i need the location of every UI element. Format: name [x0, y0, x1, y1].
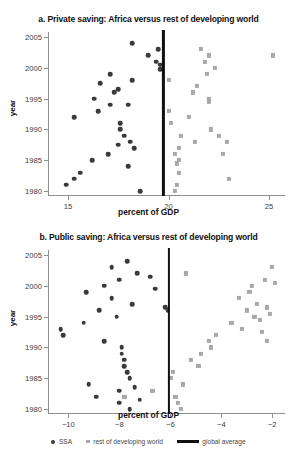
data-point-ssa [118, 121, 123, 126]
data-point-ssa [72, 176, 77, 181]
panel-a-plot-inner: 198019851990199520002005152025 [48, 32, 285, 196]
y-tick [44, 129, 48, 130]
x-tick-label: −2 [268, 420, 277, 429]
x-tick [68, 196, 69, 200]
data-point-rest-of-developing-world [181, 382, 185, 386]
data-point-ssa [96, 109, 101, 114]
legend-label: rest of developing world [93, 438, 163, 445]
data-point-rest-of-developing-world [173, 395, 177, 399]
data-point-rest-of-developing-world [273, 281, 277, 285]
panel-a-title: a. Private saving: Africa versus rest of… [0, 14, 297, 24]
data-point-ssa [108, 102, 113, 107]
legend-label: SSA [59, 438, 72, 445]
x-tick [169, 196, 170, 200]
data-point-ssa [117, 388, 122, 393]
panel-b-title: b. Public saving: Africa versus rest of … [0, 232, 297, 242]
data-point-ssa [130, 78, 135, 83]
data-point-ssa [125, 370, 130, 375]
data-point-ssa [120, 351, 125, 356]
data-point-ssa [126, 164, 131, 169]
data-point-ssa [64, 183, 69, 188]
data-point-ssa [106, 152, 111, 157]
data-point-ssa [117, 401, 122, 406]
data-point-rest-of-developing-world [189, 358, 193, 362]
data-point-ssa [102, 283, 107, 288]
data-point-ssa [108, 72, 113, 77]
data-point-rest-of-developing-world [263, 278, 267, 282]
data-point-ssa [98, 81, 103, 86]
data-point-rest-of-developing-world [268, 311, 272, 315]
panel-a-y-axis [48, 32, 49, 196]
global-average-line [162, 30, 164, 196]
panel-b-y-axis-label: year [8, 310, 17, 326]
data-point-ssa [122, 133, 127, 138]
data-point-rest-of-developing-world [205, 72, 209, 76]
y-tick [44, 286, 48, 287]
legend-label: global average [202, 438, 245, 445]
y-tick [44, 37, 48, 38]
x-tick [269, 196, 270, 200]
data-point-ssa [146, 53, 151, 58]
data-point-ssa [116, 87, 121, 92]
data-point-ssa [72, 115, 77, 120]
data-point-rest-of-developing-world [176, 170, 180, 174]
data-point-ssa [138, 189, 143, 194]
panel-b-x-axis-label: percent of GDP [0, 410, 297, 420]
y-tick-label: 2000 [25, 281, 42, 290]
y-tick-label: 1990 [25, 125, 42, 134]
figure-legend: SSArest of developing worldglobal averag… [0, 438, 297, 445]
data-point-ssa [94, 394, 99, 399]
x-tick-label: −4 [217, 420, 226, 429]
data-point-rest-of-developing-world [203, 60, 207, 64]
panel-a-plot-area: 198019851990199520002005152025 [48, 32, 285, 196]
data-point-ssa [84, 290, 89, 295]
data-point-rest-of-developing-world [168, 121, 172, 125]
data-point-ssa [126, 102, 131, 107]
data-point-ssa [148, 274, 153, 279]
y-tick [44, 347, 48, 348]
data-point-ssa [125, 259, 130, 264]
y-tick-label: 1985 [25, 156, 42, 165]
y-tick-label: 1995 [25, 94, 42, 103]
data-point-rest-of-developing-world [174, 183, 178, 187]
y-tick-label: 2005 [25, 250, 42, 259]
data-point-rest-of-developing-world [250, 284, 254, 288]
data-point-rest-of-developing-world [176, 146, 180, 150]
data-point-rest-of-developing-world [255, 302, 259, 306]
data-point-ssa [137, 398, 142, 403]
data-point-rest-of-developing-world [171, 370, 175, 374]
panel-b-y-axis [48, 250, 49, 414]
data-point-rest-of-developing-world [237, 296, 241, 300]
x-tick-label: −6 [166, 420, 175, 429]
y-tick-label: 1990 [25, 343, 42, 352]
data-point-ssa [81, 320, 86, 325]
data-point-ssa [127, 376, 132, 381]
data-point-ssa [132, 146, 137, 151]
data-point-ssa [116, 143, 121, 148]
y-tick [44, 160, 48, 161]
data-point-rest-of-developing-world [247, 290, 251, 294]
data-point-rest-of-developing-world [240, 327, 244, 331]
y-tick [44, 99, 48, 100]
data-point-rest-of-developing-world [207, 96, 211, 100]
data-point-ssa [122, 364, 127, 369]
data-point-ssa [86, 382, 91, 387]
data-point-rest-of-developing-world [227, 177, 231, 181]
data-point-ssa [130, 41, 135, 46]
data-point-rest-of-developing-world [271, 53, 275, 57]
y-tick [44, 317, 48, 318]
data-point-rest-of-developing-world [166, 78, 170, 82]
data-point-rest-of-developing-world [166, 109, 170, 113]
legend-item: SSA [51, 438, 72, 445]
data-point-ssa [90, 158, 95, 163]
data-point-ssa [120, 345, 125, 350]
y-tick-label: 1985 [25, 374, 42, 383]
data-point-ssa [118, 127, 123, 132]
data-point-ssa [78, 170, 83, 175]
data-point-rest-of-developing-world [270, 265, 274, 269]
data-point-rest-of-developing-world [229, 321, 233, 325]
legend-item: global average [177, 438, 246, 445]
data-point-ssa [156, 47, 161, 52]
data-point-ssa [117, 277, 122, 282]
data-point-rest-of-developing-world [225, 140, 229, 144]
